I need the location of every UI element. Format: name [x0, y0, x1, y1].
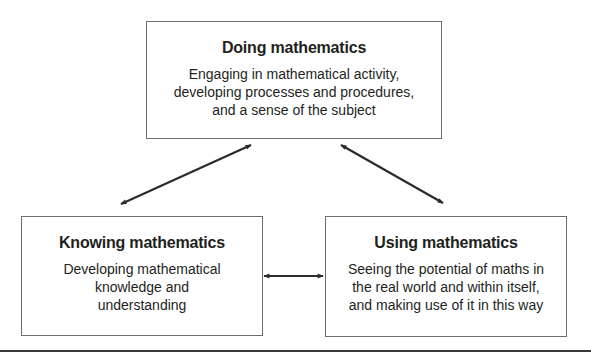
- edges-layer: [0, 0, 591, 362]
- edge-doing-knowing: [121, 145, 251, 204]
- edge-doing-using: [341, 145, 443, 203]
- bottom-rule: [0, 350, 591, 352]
